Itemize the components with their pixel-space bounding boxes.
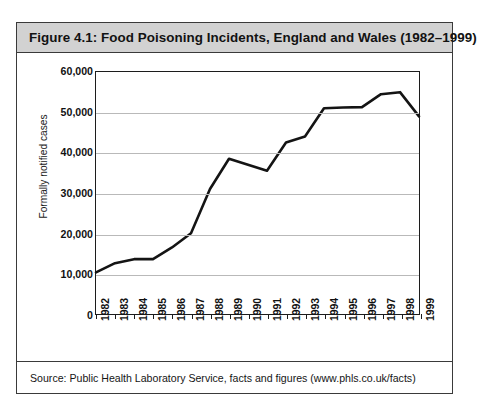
source-text: Source: Public Health Laboratory Service…	[17, 372, 416, 384]
figure-box: Figure 4.1: Food Poisoning Incidents, En…	[16, 22, 453, 394]
line-series	[96, 72, 419, 314]
x-axis-tick-mark	[115, 314, 116, 319]
x-axis-tick-mark	[268, 314, 269, 319]
x-axis-tick-label: 1982	[100, 298, 111, 321]
x-axis-tick-label: 1989	[233, 298, 244, 321]
x-axis-tick-label: 1998	[405, 298, 416, 321]
x-axis-tick-mark	[402, 314, 403, 319]
source-band: Source: Public Health Laboratory Service…	[17, 361, 452, 393]
series-line-formally-notified-cases	[96, 92, 419, 272]
x-axis-tick-mark	[211, 314, 212, 319]
gridline	[96, 194, 419, 195]
x-axis-tick-mark	[249, 314, 250, 319]
plot-area	[95, 71, 420, 315]
page-ghost-header	[336, 2, 446, 10]
figure-title: Figure 4.1: Food Poisoning Incidents, En…	[17, 30, 477, 45]
gridline	[96, 113, 419, 114]
figure-title-band: Figure 4.1: Food Poisoning Incidents, En…	[17, 23, 452, 53]
gridline	[96, 235, 419, 236]
gridline	[96, 275, 419, 276]
x-axis-tick-label: 1993	[310, 298, 321, 321]
y-axis-tick-label: 50,000	[39, 106, 93, 118]
x-axis-tick-label: 1985	[157, 298, 168, 321]
x-axis-tick-mark	[134, 314, 135, 319]
x-axis-tick-label: 1996	[367, 298, 378, 321]
x-axis-tick-mark	[287, 314, 288, 319]
y-axis-tick-label: 30,000	[39, 187, 93, 199]
x-axis-tick-mark	[325, 314, 326, 319]
y-axis-tick-label: 20,000	[39, 228, 93, 240]
y-axis-tick-label: 60,000	[39, 65, 93, 77]
x-axis-tick-label: 1987	[195, 298, 206, 321]
chart-region: Formally notified cases 010,00020,00030,…	[17, 53, 452, 363]
y-axis-tick-label: 40,000	[39, 146, 93, 158]
x-axis-tick-mark	[383, 314, 384, 319]
x-axis-tick-label: 1997	[386, 298, 397, 321]
x-axis-tick-mark	[306, 314, 307, 319]
x-axis-tick-label: 1990	[252, 298, 263, 321]
x-axis-tick-label: 1999	[425, 298, 436, 321]
y-axis-tick-labels: 010,00020,00030,00040,00050,00060,000	[35, 53, 93, 363]
x-axis-tick-label: 1988	[214, 298, 225, 321]
gridline	[96, 153, 419, 154]
x-axis-tick-mark	[153, 314, 154, 319]
x-axis-tick-label: 1992	[291, 298, 302, 321]
y-axis-tick-label: 0	[39, 309, 93, 321]
x-axis-tick-label: 1986	[176, 298, 187, 321]
x-axis-tick-label: 1995	[348, 298, 359, 321]
x-axis-tick-mark	[96, 314, 97, 319]
x-axis-tick-label: 1984	[138, 298, 149, 321]
x-axis-tick-label: 1991	[272, 298, 283, 321]
x-axis-tick-mark	[192, 314, 193, 319]
x-axis-tick-mark	[230, 314, 231, 319]
y-axis-tick-label: 10,000	[39, 268, 93, 280]
x-axis-tick-mark	[172, 314, 173, 319]
x-axis-tick-label: 1983	[119, 298, 130, 321]
x-axis-tick-mark	[345, 314, 346, 319]
x-axis-tick-mark	[421, 314, 422, 319]
x-axis-tick-mark	[364, 314, 365, 319]
x-axis-tick-label: 1994	[329, 298, 340, 321]
